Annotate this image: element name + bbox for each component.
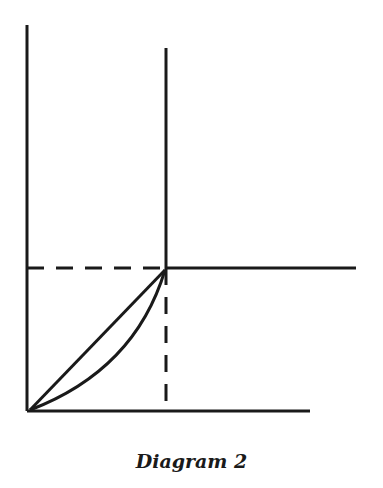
diagonal-straight-line bbox=[30, 270, 165, 410]
diagram bbox=[0, 0, 383, 440]
diagram-caption: Diagram 2 bbox=[0, 450, 383, 472]
